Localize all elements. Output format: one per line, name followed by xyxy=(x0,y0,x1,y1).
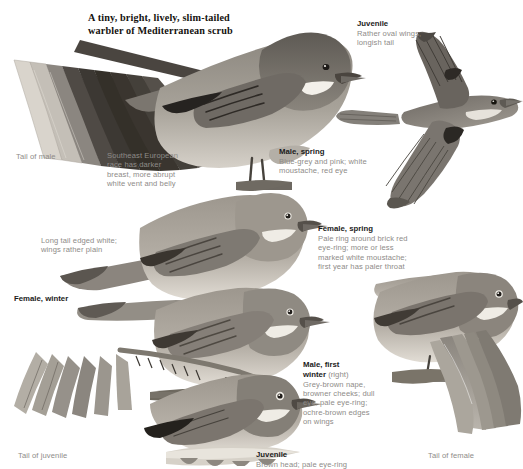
label-male-spring-caption: Blue-grey and pink; white moustache, red… xyxy=(279,157,367,175)
label-juvenile-flight: JuvenileRather oval wings, longish tail xyxy=(357,10,447,48)
label-tail-of-female: Tail of female xyxy=(428,451,474,460)
label-female-winter: Female, winter xyxy=(14,294,68,303)
label-male-spring: Male, springBlue-grey and pink; white mo… xyxy=(279,138,389,176)
label-female-spring-heading: Female, spring xyxy=(318,224,430,234)
label-race-note: Southeast European race has darker breas… xyxy=(107,151,199,189)
label-male-spring-heading: Male, spring xyxy=(279,147,389,157)
juvenile-flight-illustration xyxy=(336,32,523,209)
label-juvenile-flight-caption: Rather oval wings, longish tail xyxy=(357,29,421,47)
label-juvenile-perched-caption: Brown head; pale eye-ring xyxy=(256,460,347,469)
label-tail-of-juvenile: Tail of juvenile xyxy=(18,451,67,460)
label-long-tail-note: Long tail edged white; wings rather plai… xyxy=(41,236,151,255)
label-male-first-winter: Male, firstwinter (right)Grey-brown nape… xyxy=(303,351,381,427)
label-female-spring: Female, springPale ring around brick red… xyxy=(318,215,430,272)
label-male-first-winter-side: (right) xyxy=(326,370,349,379)
label-male-first-winter-caption: Grey-brown nape, browner cheeks; dull ey… xyxy=(303,380,375,427)
label-female-spring-caption: Pale ring around brick red eye-ring; mor… xyxy=(318,234,408,271)
label-juvenile-flight-heading: Juvenile xyxy=(357,19,447,29)
label-tail-of-male: Tail of male xyxy=(16,152,56,161)
label-juvenile-perched: JuvenileBrown head; pale eye-ring xyxy=(256,441,386,469)
label-juvenile-perched-heading: Juvenile xyxy=(256,450,386,460)
label-male-first-winter-heading2: winter (right) xyxy=(303,370,381,380)
label-male-first-winter-heading: Male, first xyxy=(303,360,381,370)
plate-title: A tiny, bright, lively, slim-tailed warb… xyxy=(88,12,233,37)
